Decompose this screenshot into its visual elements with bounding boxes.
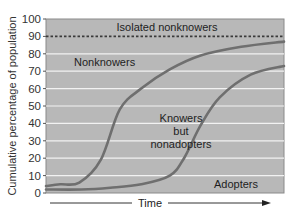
y-axis-ticks: 0102030405060708090100 bbox=[22, 13, 46, 199]
region-label-nonknowers: Nonknowers bbox=[74, 56, 136, 68]
y-tick-label: 20 bbox=[28, 152, 41, 164]
y-tick-label: 70 bbox=[28, 65, 41, 77]
y-tick-label: 40 bbox=[28, 117, 41, 129]
x-axis-time: Time bbox=[50, 197, 271, 209]
y-tick-label: 50 bbox=[28, 100, 41, 112]
region-label-knowers-line1: Knowers bbox=[160, 112, 203, 124]
y-axis-label: Cumulative percentage of population bbox=[6, 16, 18, 195]
region-label-isolated-nonknowers: Isolated nonknowers bbox=[117, 21, 218, 33]
x-axis-label: Time bbox=[138, 197, 162, 209]
y-tick-label: 0 bbox=[35, 187, 41, 199]
y-tick-label: 80 bbox=[28, 48, 41, 60]
diffusion-chart: 0102030405060708090100 Cumulative percen… bbox=[0, 0, 294, 216]
y-tick-label: 60 bbox=[28, 83, 41, 95]
y-tick-label: 30 bbox=[28, 135, 41, 147]
y-tick-label: 90 bbox=[28, 30, 41, 42]
region-label-knowers-line2: but bbox=[173, 125, 188, 137]
y-tick-label: 100 bbox=[22, 13, 41, 25]
region-label-knowers-line3: nonadopters bbox=[150, 138, 212, 150]
region-label-adopters: Adopters bbox=[214, 178, 259, 190]
plot-area bbox=[46, 19, 284, 193]
arrow-right-icon bbox=[262, 200, 271, 206]
y-tick-label: 10 bbox=[28, 170, 41, 182]
